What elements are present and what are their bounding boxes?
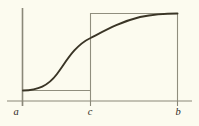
figure-canvas: a c b [0,0,199,126]
axis-label-b: b [175,106,180,117]
sigmoid-curve [23,14,178,91]
axis-label-c: c [88,106,93,117]
sigmoid-figure: a c b [0,0,199,126]
axis-label-a: a [13,106,18,117]
